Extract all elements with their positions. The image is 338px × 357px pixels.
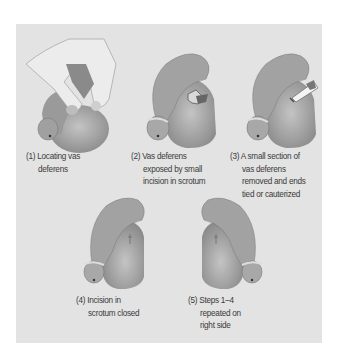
step-1-caption: (1) Locating vas deferens: [26, 150, 80, 175]
step-5-caption: (5) Steps 1–4 repeated on right side: [188, 294, 241, 332]
closed-incision-icon: [78, 192, 158, 292]
step-3-caption: (3) A small section of vas deferens remo…: [230, 150, 306, 200]
hand-locating-vas-deferens-icon: [24, 34, 124, 154]
right-side-closed-icon: [188, 192, 268, 292]
step-4-caption: (4) Incision in scrotum closed: [76, 294, 139, 319]
cautery-tool-icon: [236, 44, 326, 152]
incision-exposed-icon: [136, 44, 226, 152]
step-2-caption: (2) Vas deferens exposed by small incisi…: [131, 150, 205, 188]
diagram-panel: (1) Locating vas deferens (2) Vas defere…: [16, 24, 322, 343]
